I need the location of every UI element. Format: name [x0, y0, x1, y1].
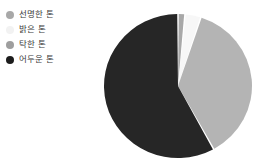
chart-legend: 선명한 톤 밝은 톤 탁한 톤 어두운 톤 [6, 9, 92, 65]
pie-slice-group [104, 14, 252, 158]
legend-item-dark-tone[interactable]: 어두운 톤 [6, 54, 92, 65]
legend-item-dull-tone[interactable]: 탁한 톤 [6, 39, 92, 50]
pie-svg [103, 14, 255, 160]
circle-marker-icon [6, 56, 14, 64]
legend-item-label: 탁한 톤 [19, 39, 46, 50]
pie-plot-area [103, 14, 255, 160]
circle-marker-icon [6, 41, 14, 49]
circle-marker-icon [6, 11, 14, 19]
circle-marker-icon [6, 26, 14, 34]
legend-item-label: 어두운 톤 [19, 54, 54, 65]
legend-item-vivid-tone[interactable]: 선명한 톤 [6, 9, 92, 20]
legend-item-bright-tone[interactable]: 밝은 톤 [6, 24, 92, 35]
legend-item-label: 선명한 톤 [19, 9, 54, 20]
legend-item-label: 밝은 톤 [19, 24, 46, 35]
pie-chart-figure: 선명한 톤 밝은 톤 탁한 톤 어두운 톤 [0, 0, 261, 164]
